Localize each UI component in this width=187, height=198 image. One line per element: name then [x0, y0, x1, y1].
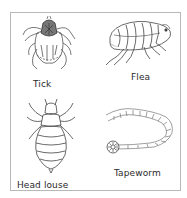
- tapeworm-icon: [100, 101, 178, 161]
- label-flea: Flea: [131, 72, 150, 82]
- tick-icon: [19, 15, 79, 75]
- head-louse-icon: [21, 99, 81, 173]
- panel-tapeworm: Tapeworm: [96, 101, 181, 191]
- panel-tick: Tick: [11, 13, 96, 101]
- parasites-figure-frame: Tick Flea: [10, 12, 181, 191]
- panel-head-louse: Head louse: [11, 101, 96, 191]
- panel-flea: Flea: [96, 13, 181, 101]
- label-head-louse: Head louse: [17, 180, 68, 190]
- label-tapeworm: Tapeworm: [114, 168, 161, 178]
- label-tick: Tick: [33, 79, 51, 89]
- flea-icon: [104, 17, 174, 69]
- cropped-caption-top: [0, 0, 187, 6]
